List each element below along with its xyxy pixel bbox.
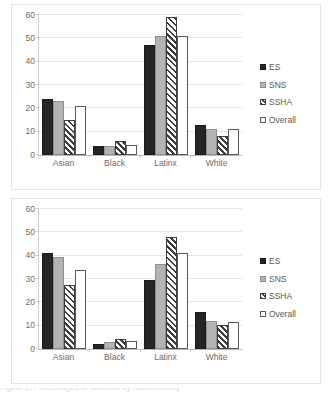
bar-overall-white[interactable] [228, 129, 239, 155]
x-axis-label-black: Black [89, 159, 140, 168]
plot-area-top: 0102030405060 [38, 15, 242, 156]
bar-sns-black[interactable] [104, 146, 115, 155]
y-axis-tick-label: 30 [26, 275, 35, 284]
x-axis-label-black: Black [89, 353, 140, 362]
bar-group-white [191, 15, 242, 155]
bar-overall-asian[interactable] [75, 106, 86, 155]
bar-group-white [191, 209, 242, 349]
bar-ssha-black[interactable] [115, 339, 126, 349]
bar-chart-top: 0102030405060 AsianBlackLatinxWhite ESSN… [11, 4, 321, 190]
y-axis-tick-label: 60 [26, 11, 35, 20]
bar-sns-latinx[interactable] [155, 36, 166, 155]
x-axis-label-asian: Asian [38, 353, 89, 362]
bar-sns-asian[interactable] [53, 101, 64, 155]
bar-overall-black[interactable] [126, 341, 137, 349]
bar-ssha-white[interactable] [217, 136, 228, 155]
legend-item-ssha[interactable]: SSHA [260, 292, 296, 301]
bar-es-white[interactable] [195, 312, 206, 349]
bar-es-white[interactable] [195, 125, 206, 155]
legend-swatch-overall-icon [260, 117, 266, 123]
bar-sns-asian[interactable] [53, 257, 64, 349]
figure-root: 0102030405060 AsianBlackLatinxWhite ESSN… [0, 0, 332, 398]
bar-es-black[interactable] [93, 344, 104, 349]
bar-chart-bottom: 0102030405060 AsianBlackLatinxWhite ESSN… [11, 198, 321, 384]
x-axis-label-latinx: Latinx [140, 159, 191, 168]
y-axis-tick-label: 40 [26, 57, 35, 66]
bar-es-latinx[interactable] [144, 280, 155, 349]
bar-group-latinx [141, 15, 192, 155]
legend-label: SSHA [269, 98, 292, 107]
bar-sns-white[interactable] [206, 321, 217, 349]
y-axis-tick-label: 10 [26, 127, 35, 136]
legend-item-es[interactable]: ES [260, 257, 296, 266]
legend-item-overall[interactable]: Overall [260, 116, 296, 125]
y-axis-tick-label: 50 [26, 34, 35, 43]
legend-label: Overall [269, 310, 296, 319]
y-axis-tick-label: 20 [26, 298, 35, 307]
y-axis-tick-label: 50 [26, 228, 35, 237]
legend-swatch-ssha-icon [260, 99, 266, 105]
bar-group-asian [39, 15, 90, 155]
bar-ssha-white[interactable] [217, 325, 228, 349]
bar-ssha-latinx[interactable] [166, 237, 177, 349]
bar-group-black [90, 15, 141, 155]
x-axis-label-latinx: Latinx [140, 353, 191, 362]
legend-label: Overall [269, 116, 296, 125]
y-axis-tick-label: 10 [26, 321, 35, 330]
bar-overall-white[interactable] [228, 322, 239, 349]
bar-group-black [90, 209, 141, 349]
bar-es-asian[interactable] [42, 253, 53, 349]
legend-item-overall[interactable]: Overall [260, 310, 296, 319]
x-axis-labels-top: AsianBlackLatinxWhite [38, 159, 242, 168]
bar-ssha-asian[interactable] [64, 120, 75, 155]
figure-caption-clipped: Figure 2. Percentages of students by rac… [0, 388, 332, 398]
legend-label: SSHA [269, 292, 292, 301]
bar-groups [39, 15, 242, 155]
bar-group-asian [39, 209, 90, 349]
x-axis-label-white: White [191, 159, 242, 168]
bar-overall-black[interactable] [126, 145, 137, 156]
legend-swatch-ssha-icon [260, 293, 266, 299]
figure-caption-text: Figure 2. Percentages of students by rac… [0, 388, 332, 393]
legend-swatch-sns-icon [260, 82, 266, 88]
legend-top: ESSNSSSHAOverall [260, 63, 296, 124]
plot-wrap-top: 0102030405060 AsianBlackLatinxWhite ESSN… [12, 5, 320, 189]
bar-es-latinx[interactable] [144, 45, 155, 155]
x-axis-label-asian: Asian [38, 159, 89, 168]
bar-group-latinx [141, 209, 192, 349]
legend-swatch-es-icon [260, 258, 266, 264]
legend-swatch-overall-icon [260, 311, 266, 317]
bar-overall-asian[interactable] [75, 270, 86, 349]
y-axis-tick-label: 40 [26, 251, 35, 260]
legend-label: SNS [269, 275, 286, 284]
legend-label: SNS [269, 81, 286, 90]
y-axis-tick-label: 20 [26, 104, 35, 113]
y-axis-tick-label: 30 [26, 81, 35, 90]
y-axis-tick-label: 60 [26, 205, 35, 214]
bar-overall-latinx[interactable] [177, 36, 188, 155]
bar-ssha-latinx[interactable] [166, 17, 177, 155]
bar-sns-white[interactable] [206, 129, 217, 155]
legend-bottom: ESSNSSSHAOverall [260, 257, 296, 318]
bar-overall-latinx[interactable] [177, 253, 188, 349]
bar-groups [39, 209, 242, 349]
legend-item-ssha[interactable]: SSHA [260, 98, 296, 107]
legend-swatch-es-icon [260, 64, 266, 70]
y-axis-tick-label: 0 [30, 345, 35, 354]
plot-wrap-bottom: 0102030405060 AsianBlackLatinxWhite ESSN… [12, 199, 320, 383]
bar-sns-latinx[interactable] [155, 264, 166, 349]
plot-area-bottom: 0102030405060 [38, 209, 242, 350]
y-axis-tick-label: 0 [30, 151, 35, 160]
x-axis-label-white: White [191, 353, 242, 362]
bar-es-asian[interactable] [42, 99, 53, 155]
legend-item-es[interactable]: ES [260, 63, 296, 72]
bar-es-black[interactable] [93, 146, 104, 155]
legend-swatch-sns-icon [260, 276, 266, 282]
bar-ssha-black[interactable] [115, 141, 126, 155]
bar-sns-black[interactable] [104, 342, 115, 349]
legend-item-sns[interactable]: SNS [260, 275, 296, 284]
x-axis-labels-bottom: AsianBlackLatinxWhite [38, 353, 242, 362]
legend-label: ES [269, 63, 280, 72]
bar-ssha-asian[interactable] [64, 285, 75, 349]
legend-item-sns[interactable]: SNS [260, 81, 296, 90]
